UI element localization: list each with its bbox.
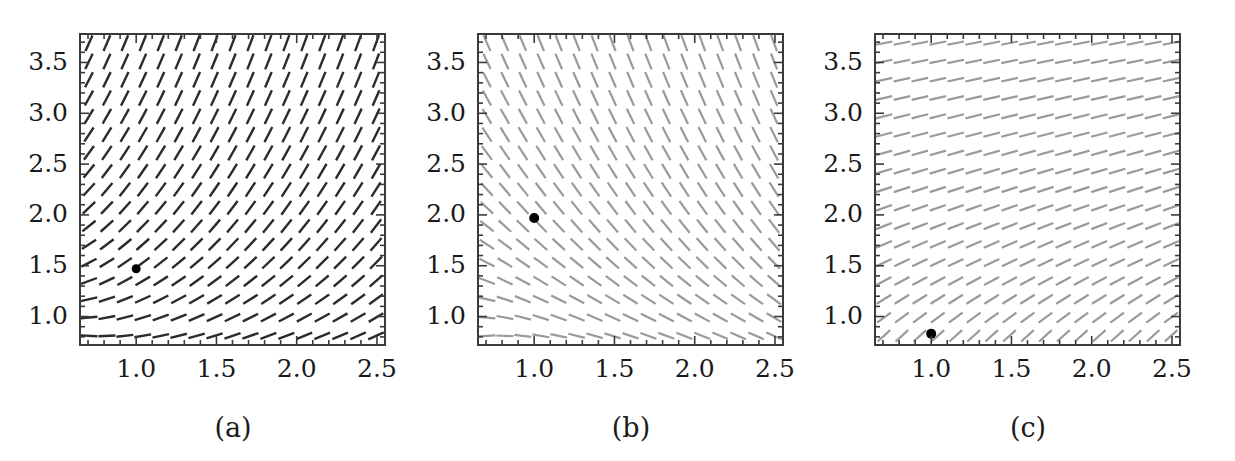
x-tick-label: 2.0	[1072, 354, 1112, 383]
y-tick-label: 1.0	[28, 301, 68, 330]
slope-field-figure: 1.01.52.02.51.01.52.02.53.03.5 1.01.52.0…	[0, 0, 1235, 461]
x-tick-label: 1.5	[595, 354, 635, 383]
field-segment	[98, 336, 115, 337]
y-tick-label: 1.0	[426, 301, 466, 330]
caption-panel-a: (a)	[173, 412, 293, 443]
initial-condition-marker	[529, 213, 539, 223]
y-tick-label: 3.5	[426, 47, 466, 76]
x-tick-label: 2.5	[755, 354, 795, 383]
y-tick-label: 3.0	[28, 98, 68, 127]
x-tick-label: 1.0	[116, 354, 156, 383]
y-tick-label: 2.5	[823, 149, 863, 178]
y-tick-label: 3.5	[823, 47, 863, 76]
x-tick-label: 1.5	[992, 354, 1032, 383]
panel-c-group: 1.01.52.02.51.01.52.02.53.03.5	[823, 34, 1192, 383]
y-tick-label: 2.0	[823, 199, 863, 228]
x-tick-label: 1.5	[197, 354, 237, 383]
y-tick-label: 2.5	[28, 149, 68, 178]
y-tick-label: 1.5	[426, 250, 466, 279]
initial-condition-marker	[132, 264, 141, 273]
panel-a-group: 1.01.52.02.51.01.52.02.53.03.5	[28, 34, 397, 383]
y-tick-label: 3.0	[823, 98, 863, 127]
caption-panel-c: (c)	[968, 412, 1088, 443]
y-tick-label: 2.0	[426, 199, 466, 228]
x-tick-label: 2.0	[675, 354, 715, 383]
y-tick-label: 3.5	[28, 47, 68, 76]
x-tick-label: 2.5	[1152, 354, 1192, 383]
panel-b-group: 1.01.52.02.51.01.52.02.53.03.5	[426, 34, 795, 383]
panels-svg: 1.01.52.02.51.01.52.02.53.03.5 1.01.52.0…	[0, 0, 1235, 461]
y-tick-label: 1.5	[28, 250, 68, 279]
y-tick-label: 2.0	[28, 199, 68, 228]
y-tick-label: 3.0	[426, 98, 466, 127]
y-tick-label: 2.5	[426, 149, 466, 178]
x-tick-label: 1.0	[911, 354, 951, 383]
field-segment	[496, 336, 513, 337]
caption-panel-b: (b)	[571, 412, 691, 443]
y-tick-label: 1.0	[823, 301, 863, 330]
x-tick-label: 2.0	[277, 354, 317, 383]
x-tick-label: 2.5	[357, 354, 397, 383]
x-tick-label: 1.0	[514, 354, 554, 383]
y-tick-label: 1.5	[823, 250, 863, 279]
